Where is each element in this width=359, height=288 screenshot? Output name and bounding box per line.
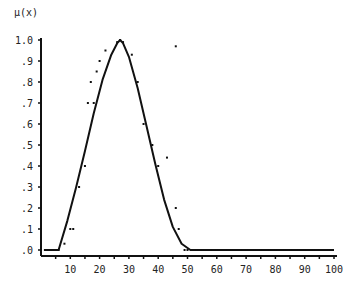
- data-point: [225, 249, 227, 251]
- y-tick-label: .5: [21, 140, 33, 151]
- y-tick-label: .4: [21, 161, 33, 172]
- data-point: [72, 228, 74, 230]
- data-point: [201, 249, 203, 251]
- observed-points: [46, 39, 329, 251]
- data-point: [96, 71, 98, 73]
- y-tick-label: .1: [21, 224, 33, 235]
- y-tick-label: .8: [21, 77, 33, 88]
- data-point: [122, 41, 124, 43]
- data-point: [104, 50, 106, 52]
- data-point: [69, 228, 71, 230]
- data-point: [52, 249, 54, 251]
- data-point: [90, 81, 92, 83]
- data-point: [151, 144, 153, 146]
- y-tick-label: 1.0: [15, 35, 33, 46]
- data-point: [269, 249, 271, 251]
- y-tick-label: .6: [21, 119, 33, 130]
- data-point: [175, 45, 177, 47]
- data-point: [245, 249, 247, 251]
- data-point: [58, 249, 60, 251]
- x-tick-label: 30: [123, 264, 135, 275]
- data-point: [216, 249, 218, 251]
- data-point: [131, 54, 133, 56]
- data-point: [289, 249, 291, 251]
- y-tick-label: .3: [21, 182, 33, 193]
- x-tick-label: 20: [94, 264, 106, 275]
- data-point: [84, 165, 86, 167]
- x-tick-label: 10: [64, 264, 76, 275]
- data-point: [87, 102, 89, 104]
- x-tick-labels: 102030405060708090100: [64, 264, 343, 275]
- data-point: [143, 123, 145, 125]
- x-tick-label: 80: [269, 264, 281, 275]
- membership-chart: .0.1.2.3.4.5.6.7.8.91.0 1020304050607080…: [0, 0, 359, 288]
- data-point: [119, 39, 121, 41]
- x-tick-label: 50: [181, 264, 193, 275]
- data-point: [239, 249, 241, 251]
- y-axis-title: μ(x): [14, 7, 38, 18]
- data-point: [63, 243, 65, 245]
- data-point: [274, 249, 276, 251]
- data-point: [46, 249, 48, 251]
- data-point: [137, 81, 139, 83]
- data-point: [195, 249, 197, 251]
- x-tick-label: 40: [152, 264, 164, 275]
- data-point: [184, 249, 186, 251]
- data-point: [327, 249, 329, 251]
- x-tick-label: 70: [240, 264, 252, 275]
- x-tick-label: 90: [299, 264, 311, 275]
- data-point: [93, 102, 95, 104]
- data-point: [283, 249, 285, 251]
- y-tick-label: .0: [21, 245, 33, 256]
- y-tick-label: .9: [21, 56, 33, 67]
- x-tick-label: 60: [211, 264, 223, 275]
- y-tick-labels: .0.1.2.3.4.5.6.7.8.91.0: [15, 35, 33, 256]
- data-point: [312, 249, 314, 251]
- fitted-curve: [44, 40, 334, 250]
- data-point: [304, 249, 306, 251]
- y-tick-label: .2: [21, 203, 33, 214]
- data-point: [298, 249, 300, 251]
- data-point: [166, 157, 168, 159]
- data-point: [116, 41, 118, 43]
- data-point: [157, 165, 159, 167]
- data-point: [210, 249, 212, 251]
- chart-axes: [38, 38, 337, 259]
- data-point: [260, 249, 262, 251]
- data-point: [175, 207, 177, 209]
- data-point: [78, 186, 80, 188]
- y-tick-label: .7: [21, 98, 33, 109]
- x-tick-label: 100: [325, 264, 343, 275]
- data-point: [230, 249, 232, 251]
- data-point: [318, 249, 320, 251]
- data-point: [178, 228, 180, 230]
- data-point: [187, 249, 189, 251]
- data-point: [254, 249, 256, 251]
- data-point: [99, 60, 101, 62]
